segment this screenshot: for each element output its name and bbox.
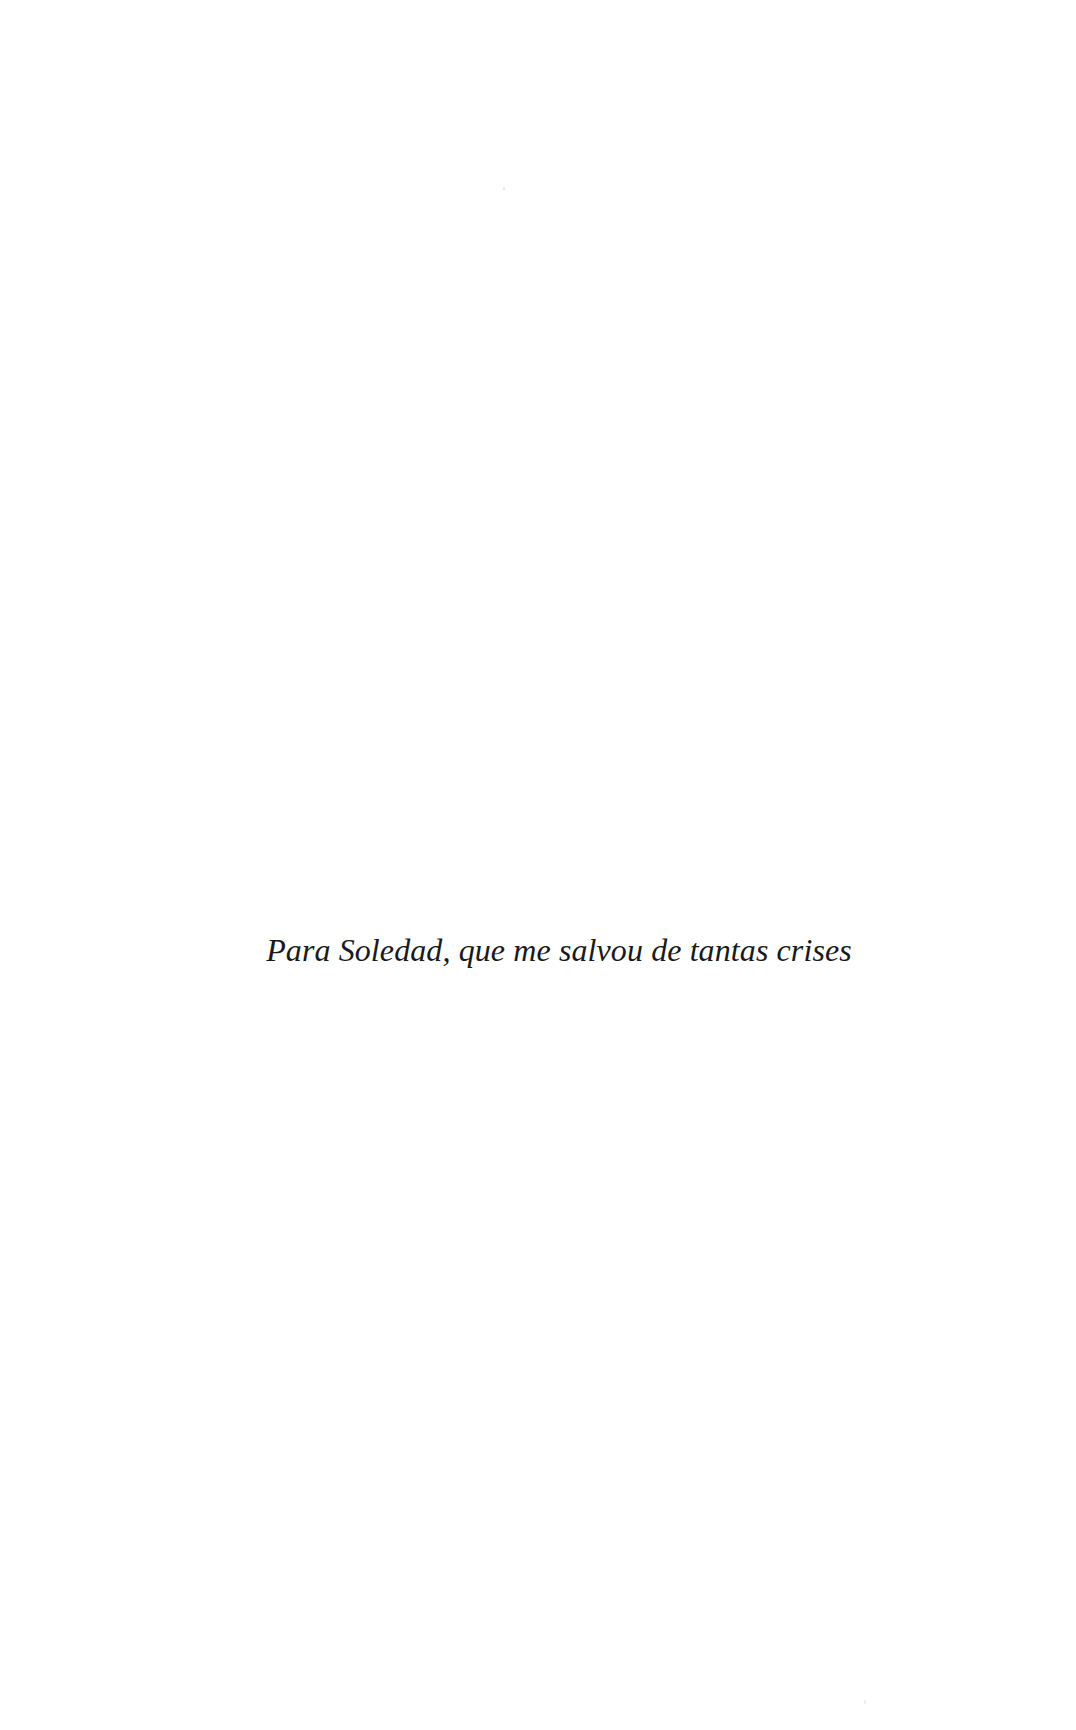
scan-speck-icon-top xyxy=(503,187,505,190)
dedication-block: Para Soledad, que me salvou de tantas cr… xyxy=(0,896,1076,1004)
scan-speck-icon-bottom xyxy=(864,1700,866,1704)
dedication-text: Para Soledad, que me salvou de tantas cr… xyxy=(266,928,852,972)
book-page: Para Soledad, que me salvou de tantas cr… xyxy=(0,0,1076,1730)
